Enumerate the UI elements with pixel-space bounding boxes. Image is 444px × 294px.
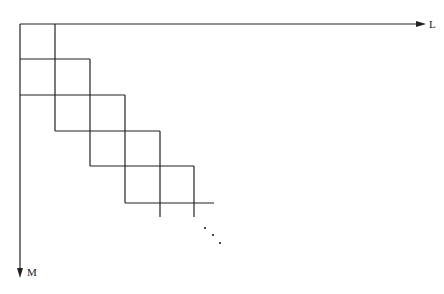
grid-lines — [20, 24, 214, 217]
axis-label-l: L — [429, 18, 436, 30]
arrowhead-l-icon — [416, 21, 426, 27]
ellipsis-dot — [204, 227, 206, 229]
axis-label-m: M — [27, 266, 37, 278]
ellipsis-dot — [212, 234, 214, 236]
ellipsis-dots — [204, 227, 221, 244]
ellipsis-dot — [219, 242, 221, 244]
arrowhead-m-icon — [17, 268, 23, 278]
staircase-diagram: L M — [0, 0, 444, 294]
